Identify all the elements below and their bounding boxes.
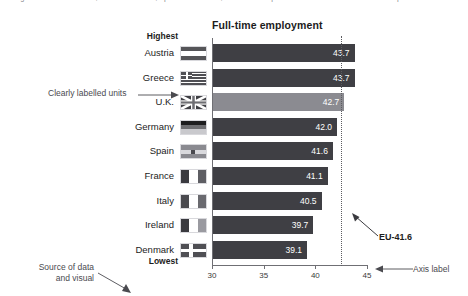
bar-value-label: 41.1 (306, 167, 323, 185)
x-tick-label: 30 (208, 271, 217, 280)
bar: 41.6 (213, 142, 333, 160)
rank-label-highest: Highest (118, 31, 178, 41)
country-label: Spain (96, 140, 174, 162)
x-tick-label: 45 (363, 271, 372, 280)
bar-value-label: 40.5 (300, 192, 317, 210)
callout-axis-text: Axis label (413, 264, 449, 274)
bar-row: Italy40.5 (0, 190, 468, 212)
bar-row: Germany42.0 (0, 116, 468, 138)
bar-row: Denmark39.1 (0, 239, 468, 261)
x-tick-mark (367, 265, 368, 269)
country-label: Greece (96, 67, 174, 89)
x-tick-mark (264, 265, 265, 269)
uk-flag (180, 95, 207, 110)
callout-axis-arrow-icon (375, 264, 413, 274)
germany-flag (180, 120, 207, 135)
bar-row: Greece43.7 (0, 67, 468, 89)
country-label: Italy (96, 190, 174, 212)
callout-source-of-data: Source of data and visual (2, 262, 94, 284)
eu-reference-arrow-icon (350, 212, 380, 238)
bar: 43.7 (213, 69, 355, 87)
x-tick-label: 35 (259, 271, 268, 280)
bar-value-label: 39.7 (292, 216, 309, 234)
bar: 43.7 (213, 44, 355, 62)
callout-units-arrow-icon (138, 90, 180, 100)
chart-title: Full-time employment (212, 19, 323, 31)
greece-flag (180, 71, 207, 86)
x-tick-label: 40 (311, 271, 320, 280)
bar: 42.0 (213, 118, 337, 136)
ireland-flag (180, 218, 207, 233)
bar: 39.7 (213, 216, 313, 234)
bar: 42.7 (213, 93, 344, 111)
eu-reference-label: EU-41.6 (379, 232, 412, 242)
spain-flag (180, 144, 207, 159)
bar-row: Spain41.6 (0, 140, 468, 162)
bar-row: France41.1 (0, 165, 468, 187)
bar-value-label: 42.0 (315, 118, 332, 136)
callout-source-arrow-icon (98, 272, 134, 296)
france-flag (180, 169, 207, 184)
bar-value-label: 39.1 (285, 241, 302, 259)
callout-units-text: Clearly labelled units (48, 88, 126, 98)
bar-value-label: 41.6 (311, 142, 328, 160)
callout-clearly-labelled-units: Clearly labelled units (48, 88, 126, 98)
country-label: France (96, 165, 174, 187)
country-label: Ireland (96, 214, 174, 236)
x-tick-mark (212, 265, 213, 269)
bar: 39.1 (213, 241, 307, 259)
country-label: Denmark (96, 239, 174, 261)
x-tick-mark (315, 265, 316, 269)
eu-reference-line (341, 36, 342, 266)
callout-source-line1: Source of data (2, 262, 94, 273)
callout-source-line2: and visual (2, 273, 94, 284)
denmark-flag (180, 243, 207, 258)
bar-value-label: 42.7 (323, 93, 340, 111)
country-label: Germany (96, 116, 174, 138)
x-axis-line (212, 265, 367, 266)
bar: 41.1 (213, 167, 328, 185)
bar: 40.5 (213, 192, 322, 210)
italy-flag (180, 194, 207, 209)
bar-row: Austria43.7 (0, 42, 468, 64)
austria-flag (180, 46, 207, 61)
callout-axis-label: Axis label (413, 264, 449, 274)
country-label: Austria (96, 42, 174, 64)
bar-chart: Full-time employment Highest Lowest Aust… (0, 0, 468, 296)
